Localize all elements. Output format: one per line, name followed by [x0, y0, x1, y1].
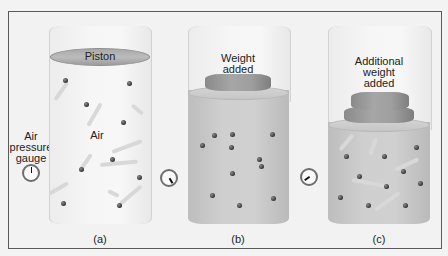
panel-caption-a: (a) — [88, 234, 112, 245]
gas-label: Air — [82, 130, 112, 141]
air-molecule — [229, 145, 234, 150]
air-molecule — [110, 157, 115, 162]
air-molecule — [137, 175, 142, 180]
air-molecule — [117, 203, 122, 208]
pressure-gauge-icon — [300, 168, 318, 186]
air-molecule — [271, 196, 276, 201]
air-molecule — [401, 169, 406, 174]
weight-b — [205, 74, 271, 91]
air-molecule — [84, 102, 89, 107]
panel-caption-c: (c) — [367, 234, 391, 245]
air-molecule — [344, 154, 349, 159]
air-molecule — [384, 184, 389, 189]
air-molecule — [414, 145, 419, 150]
air-molecule — [366, 203, 371, 208]
air-molecule — [382, 154, 387, 159]
air-molecule — [237, 203, 242, 208]
weight-added-label: Weight added — [208, 53, 268, 75]
panel-caption-b: (b) — [226, 234, 250, 245]
gauge-label: Air pressure gauge — [8, 131, 54, 164]
piston-label: Piston — [70, 51, 130, 62]
weight-c-top — [351, 92, 409, 110]
additional-weight-label: Additional weight added — [344, 56, 414, 89]
air-molecule — [270, 132, 275, 137]
air-molecule — [230, 132, 235, 137]
air-molecule — [212, 133, 217, 138]
pressure-gauge-icon — [22, 164, 40, 182]
air-molecule — [259, 164, 264, 169]
air-molecule — [63, 78, 68, 83]
air-molecule — [257, 157, 262, 162]
air-molecule — [230, 171, 235, 176]
air-molecule — [418, 181, 423, 186]
air-molecule — [79, 167, 84, 172]
air-molecule — [338, 195, 343, 200]
air-molecule — [61, 201, 66, 206]
air-molecule — [403, 203, 408, 208]
air-molecule — [200, 143, 205, 148]
air-molecule — [127, 81, 132, 86]
air-molecule — [121, 120, 126, 125]
pressure-gauge-icon — [160, 169, 178, 187]
air-molecule — [357, 174, 362, 179]
air-molecule — [210, 193, 215, 198]
